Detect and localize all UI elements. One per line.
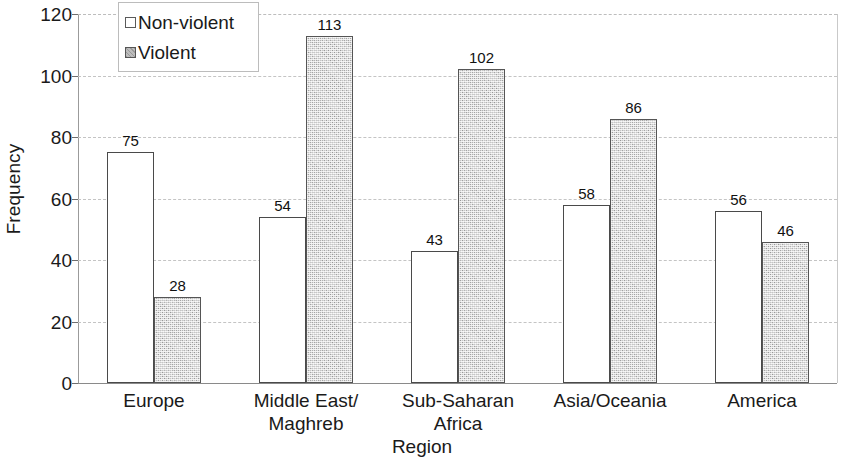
bar-nonviolent[interactable] [259,217,306,383]
y-axis-tick-label: 100 [16,67,72,86]
legend-label: Non-violent [138,13,234,32]
legend: Non-violentViolent [118,2,259,72]
y-axis-tick-label: 0 [16,374,72,393]
bar-value-label: 75 [97,133,164,148]
y-axis-tick-label: 40 [16,251,72,270]
y-axis-tick-labels: 020406080100120 [10,0,72,468]
bar-violent[interactable] [458,69,505,383]
bar-value-label: 46 [752,223,819,238]
legend-entry-nonviolent[interactable]: Non-violent [125,7,258,37]
y-axis-tick-label: 80 [16,128,72,147]
bar-nonviolent[interactable] [107,152,154,383]
bar-nonviolent[interactable] [563,205,610,383]
legend-swatch-nonviolent-icon [125,17,136,28]
bar-value-label: 113 [296,17,363,32]
y-axis-tick-label: 60 [16,190,72,209]
bar-violent[interactable] [610,119,657,383]
x-axis-category-label: Middle East/Maghreb [230,389,382,435]
legend-entry-violent[interactable]: Violent [125,37,258,67]
axis-baseline [78,383,837,384]
bar-value-label: 86 [600,100,667,115]
bar-chart: Frequency 020406080100120 75285411343102… [0,0,844,468]
x-axis-category-label: America [686,389,838,412]
bar-violent[interactable] [762,242,809,383]
x-axis-category-label: Sub-SaharanAfrica [382,389,534,435]
y-axis-tick-label: 120 [16,5,72,24]
x-axis-category-label: Europe [78,389,230,412]
bar-value-label: 56 [705,192,772,207]
bar-nonviolent[interactable] [411,251,458,383]
x-axis-category-label: Asia/Oceania [534,389,686,412]
legend-label: Violent [138,43,196,62]
legend-swatch-violent-icon [125,47,136,58]
bar-value-label: 28 [144,278,211,293]
bar-violent[interactable] [306,36,353,383]
bar-violent[interactable] [154,297,201,383]
y-axis-tick-mark [72,383,78,384]
x-axis-title: Region [0,436,844,458]
y-axis-tick-label: 20 [16,313,72,332]
bar-value-label: 102 [448,50,515,65]
